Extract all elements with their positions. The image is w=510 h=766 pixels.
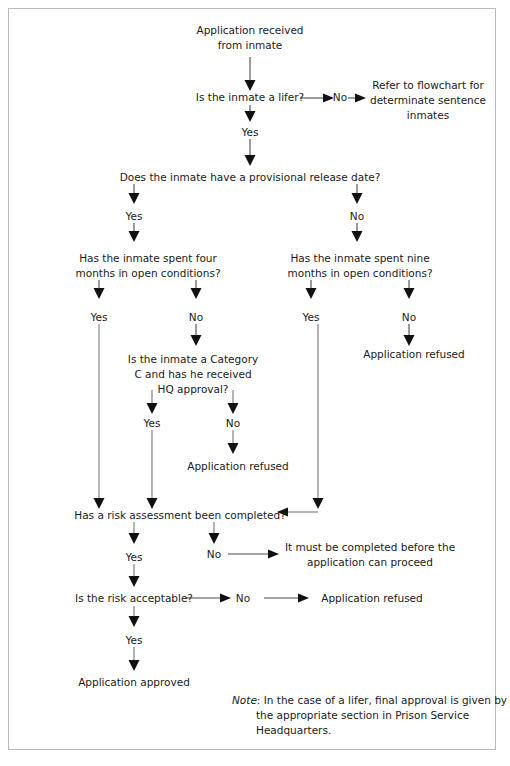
edge-category-no-to-refused xyxy=(228,430,239,454)
note-prefix: Note xyxy=(232,694,257,706)
note-line2: the appropriate section in Prison Servic… xyxy=(256,709,469,721)
edge-risk-assessment-to-no xyxy=(209,522,220,544)
edge-category-to-yes xyxy=(147,390,158,414)
node-question-four-months-line1: Has the inmate spent four xyxy=(79,252,217,264)
edge-acceptable-no-to-refused xyxy=(264,594,309,603)
edge-no-to-must-complete xyxy=(228,550,279,559)
node-start-line2: from inmate xyxy=(218,39,283,51)
node-question-category-line1: Is the inmate a Category xyxy=(128,353,258,365)
node-question-release-date: Does the inmate have a provisional relea… xyxy=(120,171,381,183)
label-category-no: No xyxy=(226,417,240,429)
note-line1-body: In the case of a lifer, final approval i… xyxy=(260,694,507,706)
node-refer-line1: Refer to flowchart for xyxy=(372,79,484,91)
node-question-risk-assessment: Has a risk assessment been completed? xyxy=(74,509,285,521)
node-must-complete-line1: It must be completed before the xyxy=(285,541,455,553)
edge-acceptable-to-yes xyxy=(129,606,140,627)
edge-nine-no-to-refused xyxy=(404,324,415,346)
edge-nine-to-yes xyxy=(306,280,317,299)
label-lifer-no: No xyxy=(333,91,347,103)
edge-category-yes-to-risk-assessment xyxy=(147,430,158,509)
edge-risk-assessment-to-yes xyxy=(129,522,140,544)
note-line3: Headquarters. xyxy=(256,724,331,736)
edge-yes-to-release-date xyxy=(245,139,256,166)
node-must-complete-line2: application can proceed xyxy=(307,556,433,568)
edge-four-to-no xyxy=(191,280,202,299)
node-question-category-line3: HQ approval? xyxy=(158,383,229,395)
node-refer-line2: determinate sentence xyxy=(370,94,486,106)
label-acceptable-no: No xyxy=(236,592,250,604)
edge-lifer-to-yes xyxy=(245,105,256,122)
label-lifer-yes: Yes xyxy=(241,126,259,138)
node-question-nine-months-line1: Has the inmate spent nine xyxy=(290,252,429,264)
label-release-yes: Yes xyxy=(125,210,143,222)
node-refused-nine-no: Application refused xyxy=(363,348,465,360)
edge-category-to-no xyxy=(228,390,239,414)
edge-yes-to-approved xyxy=(129,647,140,671)
edge-no-to-nine-months xyxy=(352,223,363,242)
edge-nine-yes-to-risk-assessment xyxy=(277,324,324,517)
node-question-category-line2: C and has he received xyxy=(134,368,251,380)
label-acceptable-yes: Yes xyxy=(125,634,143,646)
edge-release-to-no xyxy=(352,184,363,204)
label-category-yes: Yes xyxy=(143,417,161,429)
node-refused-risk: Application refused xyxy=(321,592,423,604)
note-line1: Note: In the case of a lifer, final appr… xyxy=(232,694,507,706)
edge-no-to-refer xyxy=(348,94,366,103)
label-risk-assessment-no: No xyxy=(207,548,221,560)
label-four-yes: Yes xyxy=(90,311,108,323)
node-question-risk-acceptable: Is the risk acceptable? xyxy=(75,592,193,604)
node-question-lifer: Is the inmate a lifer? xyxy=(196,91,304,103)
node-approved: Application approved xyxy=(78,676,190,688)
label-release-no: No xyxy=(350,210,364,222)
edge-yes-to-four-months xyxy=(129,223,140,242)
edge-lifer-to-no xyxy=(300,94,334,103)
edge-start-to-lifer xyxy=(245,57,256,91)
edge-four-to-yes xyxy=(94,280,105,299)
label-four-no: No xyxy=(189,311,203,323)
edge-nine-to-no xyxy=(404,280,415,299)
edge-release-to-yes xyxy=(129,184,140,204)
edge-four-no-to-category xyxy=(191,324,202,346)
edge-four-yes-to-risk-assessment xyxy=(94,324,105,509)
node-refused-category-no: Application refused xyxy=(187,460,289,472)
flowchart-page: Application received from inmate Is the … xyxy=(0,0,510,766)
label-risk-assessment-yes: Yes xyxy=(125,551,143,563)
node-question-four-months-line2: months in open conditions? xyxy=(76,267,221,279)
edge-risk-yes-to-acceptable xyxy=(129,564,140,587)
node-start-line1: Application received xyxy=(196,24,303,36)
label-nine-no: No xyxy=(402,311,416,323)
label-nine-yes: Yes xyxy=(302,311,320,323)
node-refer-line3: inmates xyxy=(407,109,449,121)
node-question-nine-months-line2: months in open conditions? xyxy=(288,267,433,279)
flowchart-diagram: Application received from inmate Is the … xyxy=(0,0,510,766)
